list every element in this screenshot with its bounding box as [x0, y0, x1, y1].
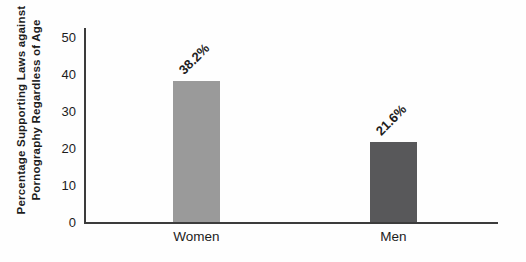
y-tick-label-10: 10: [46, 178, 76, 193]
y-tick-label-0: 0: [46, 215, 76, 230]
bar-men: [370, 142, 417, 222]
y-axis-title: Percentage Supporting Laws against Porno…: [14, 5, 48, 215]
category-label-women: Women: [173, 229, 219, 244]
y-tick-label-30: 30: [46, 104, 76, 119]
y-tick-label-20: 20: [46, 141, 76, 156]
x-axis-line: [84, 222, 498, 224]
y-axis-title-line1: Percentage Supporting Laws against: [14, 5, 29, 215]
y-axis-line: [84, 28, 86, 224]
y-tick-label-50: 50: [46, 30, 76, 45]
y-axis-title-line2: Pornography Regardless of Age: [29, 5, 44, 215]
bar-value-label-women: 38.2%: [176, 40, 213, 77]
y-tick-label-40: 40: [46, 67, 76, 82]
bar-chart-figure: Percentage Supporting Laws against Porno…: [0, 0, 526, 262]
bar-value-label-men: 21.6%: [373, 102, 410, 139]
bar-women: [173, 81, 220, 222]
category-label-men: Men: [380, 229, 406, 244]
